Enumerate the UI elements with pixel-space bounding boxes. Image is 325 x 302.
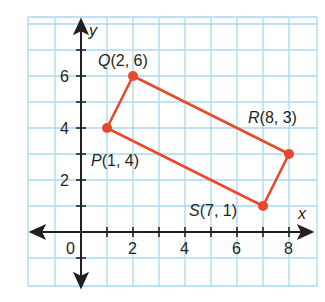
x-tick-8: 8: [284, 240, 293, 257]
origin-label: 0: [66, 240, 75, 257]
y-axis-label: y: [88, 22, 98, 39]
x-tick-4: 4: [180, 240, 189, 257]
label-r: R(8, 3): [248, 109, 297, 126]
x-axis-left-arrow-icon: [31, 226, 44, 238]
coordinate-plane: 0 2 4 6 8 2 4 6 y x Q(2, 6) P(1, 4) R(8,…: [0, 0, 325, 302]
x-axis-label: x: [297, 205, 307, 222]
x-tick-2: 2: [128, 240, 137, 257]
point-s: [258, 201, 268, 211]
label-p: P(1, 4): [91, 152, 139, 169]
rectangle-pqrs: [102, 71, 294, 211]
point-r: [284, 149, 294, 159]
x-axis-right-arrow-icon: [299, 226, 312, 238]
y-axis-down-arrow-icon: [75, 274, 87, 287]
label-q: Q(2, 6): [98, 52, 148, 69]
label-s: S(7, 1): [189, 202, 237, 219]
point-p: [102, 123, 112, 133]
y-tick-4: 4: [60, 120, 69, 137]
y-tick-6: 6: [60, 68, 69, 85]
y-axis-up-arrow-icon: [75, 20, 87, 33]
y-tick-2: 2: [60, 172, 69, 189]
x-tick-6: 6: [232, 240, 241, 257]
point-q: [128, 71, 138, 81]
